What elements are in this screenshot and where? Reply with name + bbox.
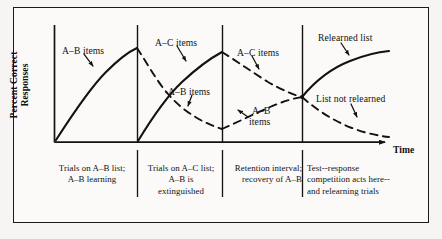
phase-caption-4-line-1: Test--response (307, 163, 425, 174)
phase-caption-3: Retention interval; recovery of A–B (224, 163, 302, 186)
y-axis-label: Percent Correct Responses (8, 30, 30, 140)
phase-caption-1-line-2: A–B learning (48, 174, 136, 185)
x-axis-label: Time (393, 144, 414, 155)
phase-caption-4-line-2: competition acts here-- (307, 174, 425, 185)
label-ab-items-phase3-line2: items (249, 116, 270, 127)
phase-caption-2-line-1: Trials on A–C list; (140, 163, 222, 174)
label-ab-items-phase3-line1: A–B (252, 105, 270, 116)
phase-caption-2-line-2: A–B is (140, 174, 222, 185)
phase-caption-3-line-2: recovery of A–B (224, 174, 302, 185)
label-list-not-relearned: List not relearned (316, 93, 385, 104)
phase-caption-3-line-1: Retention interval; (224, 163, 302, 174)
phase-caption-1: Trials on A–B list; A–B learning (48, 163, 136, 186)
label-ac-items-phase2: A–C items (155, 37, 197, 48)
label-ab-items-phase1: A–B items (62, 45, 104, 56)
phase-caption-1-line-1: Trials on A–B list; (48, 163, 136, 174)
phase-caption-4: Test--response competition acts here-- a… (307, 163, 425, 197)
phase-caption-2-line-3: extinguished (140, 186, 222, 197)
label-relearned-list: Relearned list (318, 32, 372, 43)
phase-caption-4-line-3: and relearning trials (307, 186, 425, 197)
figure-container: Percent Correct Responses Time A–B items… (0, 0, 442, 239)
label-ac-items-phase3: A–C items (237, 47, 279, 58)
phase-caption-2: Trials on A–C list; A–B is extinguished (140, 163, 222, 197)
label-ab-items-phase2: A–B items (168, 86, 210, 97)
